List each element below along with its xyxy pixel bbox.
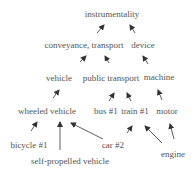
node-vehicle: vehicle xyxy=(46,73,72,83)
node-bicycle-1: bicycle #1 xyxy=(10,140,47,150)
edge-arrow-wheeled_vehicle-to-vehicle xyxy=(53,90,59,98)
node-device: device xyxy=(131,40,154,50)
node-train-1: train #1 xyxy=(121,106,149,116)
node-self-propelled-vehicle: self-propelled vehicle xyxy=(31,156,109,166)
edge-arrow-motor-to-machine xyxy=(158,90,162,100)
node-car-2: car #2 xyxy=(102,140,124,150)
node-instrumentality: instrumentality xyxy=(85,9,140,19)
edge-arrow-car2-to-wheeled_vehicle xyxy=(71,123,103,139)
edge-arrow-public_transport-to-conveyance xyxy=(105,56,109,63)
edge-arrow-device-to-instrumentality xyxy=(130,25,135,33)
node-machine: machine xyxy=(144,72,175,82)
node-conveyance-transport: conveyance, transport xyxy=(45,40,124,50)
edge-arrow-train1-to-public_transport xyxy=(127,93,131,101)
edge-arrow-engine-to-train1 xyxy=(145,126,162,143)
node-engine: engine xyxy=(161,149,185,159)
node-wheeled-vehicle: wheeled vehicle xyxy=(18,106,76,116)
hypernym-diagram: instrumentality conveyance, transport de… xyxy=(0,0,194,174)
edge-arrow-bus1-to-public_transport xyxy=(109,93,114,101)
edge-arrow-bicycle1-to-wheeled_vehicle xyxy=(31,122,37,131)
edge-arrow-machine-to-device xyxy=(143,56,148,64)
edge-arrow-car2-to-train1 xyxy=(127,126,132,133)
edge-arrow-engine-to-motor xyxy=(170,124,174,139)
edge-arrow-vehicle-to-conveyance xyxy=(80,56,86,62)
edge-arrow-conveyance-to-instrumentality xyxy=(97,25,104,33)
node-public-transport: public transport xyxy=(83,73,140,83)
node-motor: motor xyxy=(156,106,178,116)
node-bus-1: bus #1 xyxy=(94,106,118,116)
